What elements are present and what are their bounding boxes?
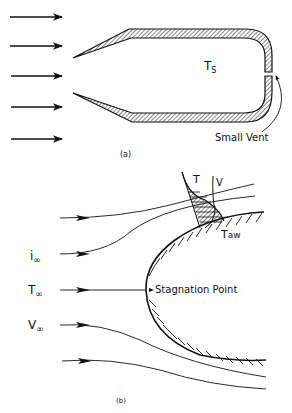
label-Taw: Taw — [220, 228, 241, 241]
streamline — [60, 184, 254, 218]
label-T-infinity: T∞ — [27, 283, 43, 299]
small-vent-label: Small Vent — [215, 132, 269, 143]
interior-temperature-label: TS — [203, 59, 216, 75]
figure-a: TS Small Vent (a) — [10, 17, 282, 159]
label-V-infinity: V∞ — [28, 318, 44, 334]
figure-b: T V Taw i∞ T∞ V∞ Stagnation Point (b) — [27, 172, 266, 405]
flow-arrows-a — [10, 17, 62, 139]
label-T: T — [192, 173, 200, 186]
stagnation-point-label: Stagnation Point — [155, 284, 237, 295]
arrowhead-icon — [78, 358, 92, 364]
streamline — [60, 196, 255, 254]
shell-lower-wall — [73, 76, 272, 122]
shell-upper-wall — [73, 29, 272, 72]
caption-b: (b) — [116, 397, 126, 405]
diagram-canvas: TS Small Vent (a) — [0, 0, 292, 413]
streamline-arrows — [76, 215, 92, 364]
label-i-infinity: i∞ — [30, 249, 41, 265]
label-V: V — [216, 177, 223, 188]
streamline — [62, 360, 266, 389]
stagnation-pointer-icon — [149, 288, 154, 292]
caption-a: (a) — [120, 150, 131, 159]
